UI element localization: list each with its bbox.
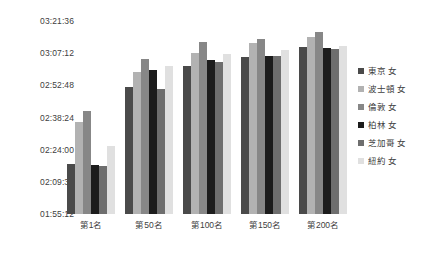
- bar: [299, 47, 307, 214]
- chart-legend: 東京 女波士頓 女倫敦 女柏林 女芝加哥 女紐約 女: [358, 62, 435, 170]
- bar: [75, 122, 83, 214]
- bar-group: [124, 21, 174, 214]
- bar: [315, 32, 323, 214]
- legend-swatch-icon: [358, 122, 364, 128]
- bar: [165, 66, 173, 214]
- bar-chart: 01:55:1202:09:3602:24:0002:38:2402:52:48…: [0, 0, 435, 257]
- bar: [99, 166, 107, 214]
- legend-item[interactable]: 東京 女: [358, 62, 435, 80]
- x-axis-tick-label: 第150名: [249, 218, 281, 230]
- x-axis-tick-label: 第50名: [135, 218, 162, 230]
- bar: [281, 50, 289, 214]
- legend-item[interactable]: 波士頓 女: [358, 80, 435, 98]
- legend-item[interactable]: 柏林 女: [358, 116, 435, 134]
- bar: [133, 72, 141, 214]
- legend-swatch-icon: [358, 86, 364, 92]
- bar: [215, 62, 223, 214]
- bar: [83, 111, 91, 214]
- bar: [207, 60, 215, 214]
- x-axis-tick-label: 第200名: [307, 218, 339, 230]
- legend-swatch-icon: [358, 104, 364, 110]
- bar: [183, 66, 191, 214]
- bar: [149, 70, 157, 214]
- legend-item-label: 芝加哥 女: [368, 139, 406, 148]
- legend-item[interactable]: 芝加哥 女: [358, 134, 435, 152]
- legend-item-label: 倫敦 女: [368, 103, 397, 112]
- legend-swatch-icon: [358, 140, 364, 146]
- bar-group: [66, 21, 116, 214]
- bar: [241, 57, 249, 214]
- legend-item-label: 紐約 女: [368, 157, 397, 166]
- bar: [157, 89, 165, 214]
- plot-area: [62, 21, 352, 214]
- bar: [199, 42, 207, 214]
- x-axis-tick-label: 第100名: [191, 218, 223, 230]
- bar: [67, 164, 75, 214]
- legend-item-label: 柏林 女: [368, 121, 397, 130]
- legend-swatch-icon: [358, 68, 364, 74]
- bar-group: [298, 21, 348, 214]
- bar: [223, 54, 231, 214]
- legend-item-label: 東京 女: [368, 67, 397, 76]
- bar-group: [182, 21, 232, 214]
- bar: [191, 53, 199, 214]
- bar-group: [240, 21, 290, 214]
- legend-swatch-icon: [358, 158, 364, 164]
- bar: [141, 59, 149, 214]
- bar: [331, 49, 339, 214]
- bar: [107, 146, 115, 214]
- bar: [125, 87, 133, 214]
- bar: [323, 48, 331, 214]
- x-axis-tick-label: 第1名: [80, 218, 103, 230]
- legend-item[interactable]: 紐約 女: [358, 152, 435, 170]
- bar: [265, 56, 273, 214]
- bar: [307, 37, 315, 214]
- bar: [257, 39, 265, 214]
- bar: [339, 46, 347, 214]
- legend-item[interactable]: 倫敦 女: [358, 98, 435, 116]
- legend-item-label: 波士頓 女: [368, 85, 406, 94]
- bar: [249, 43, 257, 214]
- bar: [91, 165, 99, 214]
- bar: [273, 56, 281, 214]
